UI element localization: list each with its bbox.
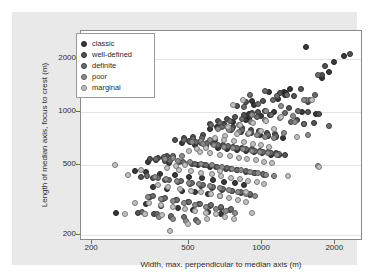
data-point [159,212,165,218]
data-point [258,128,264,134]
data-point [138,167,144,173]
data-point [243,199,249,205]
gridline-y-200 [81,235,361,236]
legend-marker-icon [81,52,87,58]
y-tick-mark-1000 [76,111,80,112]
data-point [262,134,268,140]
data-point [225,124,231,130]
data-point [241,104,247,110]
data-point [164,165,170,171]
data-point [282,152,288,158]
data-point [217,168,223,174]
x-tick-label-500: 500 [168,243,208,252]
data-point [255,101,261,107]
legend-item-label: classic [92,38,115,49]
data-point [230,145,236,151]
data-point [213,211,219,217]
x-tick-label-1000: 1000 [241,243,281,252]
data-point [261,181,267,187]
data-point [255,170,261,176]
legend-item-label: marginal [92,82,121,93]
legend-marker-icon [81,63,87,69]
data-point [311,120,317,126]
data-point [199,175,205,181]
data-point [182,206,188,212]
data-point [271,126,277,132]
data-point [269,160,275,166]
data-point [162,156,168,162]
data-point [263,118,269,124]
data-point [236,155,242,161]
data-point [249,112,255,118]
data-point [198,189,204,195]
chart-panel: 20050010002000 Length of median axis, fo… [12,12,357,265]
data-point [292,119,298,125]
data-point [186,148,192,154]
x-tick-mark-200 [91,240,92,244]
data-point [250,120,256,126]
legend: classicwell-defineddefinitepoormarginal [76,33,155,98]
data-point [316,111,322,117]
data-point [145,194,151,200]
data-point [238,167,244,173]
data-point [281,130,287,136]
data-point [285,173,291,179]
legend-item-definite[interactable]: definite [81,60,149,71]
data-point [240,97,246,103]
x-tick-mark-1000 [261,240,262,244]
data-point [227,153,233,159]
data-point [316,164,322,170]
data-point [165,184,171,190]
data-point [222,214,228,220]
data-point [230,102,236,108]
data-point [218,173,224,179]
data-point [331,59,337,65]
legend-marker-icon [81,74,87,80]
legend-item-label: poor [92,71,107,82]
data-point [163,176,169,182]
data-point [197,149,203,155]
y-axis-label: Length of median axis, focus to crest (m… [38,30,52,240]
data-point [226,187,232,193]
data-point [188,168,194,174]
legend-item-classic[interactable]: classic [81,38,149,49]
data-point [294,134,300,140]
data-point [186,180,192,186]
legend-item-poor[interactable]: poor [81,71,149,82]
data-point [309,97,315,103]
data-point [241,139,247,145]
data-point [215,126,221,132]
data-point [326,123,332,129]
data-point [231,216,237,222]
data-point [196,181,202,187]
data-point [209,171,215,177]
data-point [204,216,210,222]
y-tick-mark-200 [76,234,80,235]
data-point [232,114,238,120]
data-point [221,179,227,185]
data-point [188,188,194,194]
data-point [254,179,260,185]
data-point [210,177,216,183]
legend-item-label: definite [92,60,116,71]
data-point [195,219,201,225]
data-point [278,114,284,120]
data-point [237,176,243,182]
data-point [235,197,241,203]
data-point [260,98,266,104]
legend-item-marginal[interactable]: marginal [81,82,149,93]
data-point [278,103,284,109]
data-point [274,152,280,158]
data-point [274,93,280,99]
legend-item-well-defined[interactable]: well-defined [81,49,149,60]
data-point [280,135,286,141]
data-point [181,137,187,143]
data-point [266,144,272,150]
data-point [177,186,183,192]
data-point [144,173,150,179]
x-tick-label-2000: 2000 [314,243,354,252]
data-point [187,159,193,165]
data-point [211,142,217,148]
data-point [237,122,243,128]
data-point [305,132,311,138]
